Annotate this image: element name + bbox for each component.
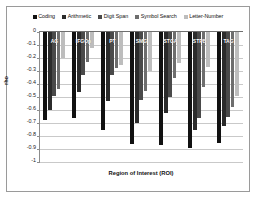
chart-legend: CodingArithmeticDigit SpanSymbol SearchL…: [7, 14, 249, 19]
bar[interactable]: [231, 32, 235, 107]
y-axis-tick-label: -0.1: [27, 41, 36, 46]
chart-frame: CodingArithmeticDigit SpanSymbol SearchL…: [6, 6, 250, 192]
bar[interactable]: [101, 32, 105, 130]
bar[interactable]: [48, 32, 52, 110]
y-axis-tickmark: [37, 32, 40, 33]
bar-group-ifgop: IFGOp: [72, 32, 94, 162]
y-axis-tickmark: [37, 149, 40, 150]
y-axis-tickmark: [37, 58, 40, 59]
bar[interactable]: [72, 32, 76, 118]
bar[interactable]: [135, 32, 139, 123]
bar[interactable]: [168, 32, 172, 97]
bar[interactable]: [130, 32, 134, 144]
y-axis-tickmark: [37, 71, 40, 72]
bar[interactable]: [43, 32, 47, 120]
legend-item-label: Digit Span: [104, 14, 128, 19]
bar-group-pt: PT: [101, 32, 123, 162]
y-axis-tickmark: [37, 84, 40, 85]
bar[interactable]: [139, 32, 143, 100]
bar[interactable]: [188, 32, 192, 148]
gridline: [40, 162, 243, 163]
bar[interactable]: [197, 32, 201, 118]
y-axis-tick-label: -0.5: [27, 93, 36, 98]
legend-swatch-icon: [33, 15, 37, 19]
bar[interactable]: [115, 32, 119, 68]
y-axis-tick-label: -0.8: [27, 132, 36, 137]
bar[interactable]: [110, 32, 114, 75]
bar[interactable]: [159, 32, 163, 145]
y-axis-tick-label: -0.3: [27, 67, 36, 72]
legend-swatch-icon: [62, 15, 66, 19]
bar[interactable]: [57, 32, 61, 89]
legend-item-symbol-search[interactable]: Symbol Search: [135, 14, 177, 19]
bar[interactable]: [173, 32, 177, 78]
y-axis-tick-labels: 0-0.1-0.2-0.3-0.4-0.5-0.6-0.7-0.8-0.9-1: [15, 31, 36, 162]
bar[interactable]: [106, 32, 110, 101]
legend-item-label: Arithmetic: [68, 14, 91, 19]
y-axis-tickmark: [37, 97, 40, 98]
bar[interactable]: [202, 32, 206, 87]
bar-group-stga: STGA: [159, 32, 181, 162]
legend-swatch-icon: [98, 15, 102, 19]
x-axis-title: Region of Interest (ROI): [39, 170, 243, 176]
bar[interactable]: [86, 32, 90, 62]
bar-group-stpb: STPB: [188, 32, 210, 162]
bar[interactable]: [226, 32, 230, 117]
bar[interactable]: [164, 32, 168, 113]
bar-group-smg: SMG: [130, 32, 152, 162]
bar[interactable]: [119, 32, 123, 65]
plot-area: AGIFGOpPTSMGSTGASTPBTAG: [39, 31, 243, 162]
legend-item-arithmetic[interactable]: Arithmetic: [62, 14, 91, 19]
y-axis-tick-label: -0.4: [27, 80, 36, 85]
y-axis-tickmark: [37, 45, 40, 46]
y-axis-tick-label: -1: [31, 158, 36, 163]
y-axis-tickmark: [37, 110, 40, 111]
bar[interactable]: [217, 32, 221, 143]
legend-item-coding[interactable]: Coding: [33, 14, 55, 19]
legend-item-label: Symbol Search: [141, 14, 177, 19]
legend-swatch-icon: [135, 15, 139, 19]
y-axis-tick-label: 0: [33, 28, 36, 33]
legend-item-letter-number[interactable]: Letter-Number: [184, 14, 224, 19]
bar[interactable]: [90, 32, 94, 48]
y-axis-tickmark: [37, 123, 40, 124]
bar-group-ag: AG: [43, 32, 65, 162]
bar-group-tag: TAG: [217, 32, 239, 162]
y-axis-tick-label: -0.9: [27, 145, 36, 150]
bar[interactable]: [148, 32, 152, 71]
y-axis-tickmark: [37, 162, 40, 163]
y-axis-title: rho: [3, 76, 9, 85]
bar[interactable]: [193, 32, 197, 130]
bar[interactable]: [61, 32, 65, 58]
y-axis-tick-label: -0.2: [27, 54, 36, 59]
bar[interactable]: [206, 32, 210, 67]
chart-figure: CodingArithmeticDigit SpanSymbol SearchL…: [0, 0, 257, 199]
y-axis-tick-label: -0.7: [27, 119, 36, 124]
legend-item-label: Coding: [38, 14, 55, 19]
bar[interactable]: [177, 32, 181, 63]
bar[interactable]: [52, 32, 56, 96]
y-axis-tick-label: -0.6: [27, 106, 36, 111]
bar[interactable]: [81, 32, 85, 75]
legend-item-digit-span[interactable]: Digit Span: [98, 14, 128, 19]
bar[interactable]: [144, 32, 148, 91]
bar[interactable]: [235, 32, 239, 96]
bar[interactable]: [222, 32, 226, 126]
bar[interactable]: [77, 32, 81, 92]
legend-swatch-icon: [184, 15, 188, 19]
legend-item-label: Letter-Number: [189, 14, 223, 19]
y-axis-tickmark: [37, 136, 40, 137]
